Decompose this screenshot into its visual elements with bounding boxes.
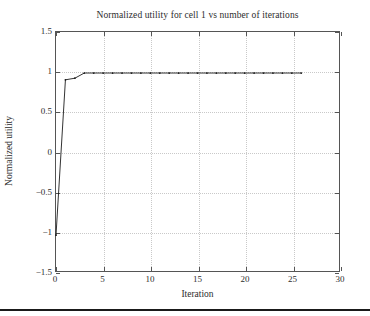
y-tick-label: 0.5 [41, 106, 52, 116]
x-axis-label: Iteration [55, 289, 340, 299]
x-tick-label: 5 [100, 274, 105, 284]
data-point-marker [131, 72, 133, 74]
data-point-marker [197, 72, 199, 74]
y-tick-label: −1.5 [36, 267, 52, 277]
chart-title: Normalized utility for cell 1 vs number … [55, 10, 340, 20]
x-tick-label: 0 [53, 274, 58, 284]
data-series-layer [56, 32, 339, 271]
plot-area [55, 31, 340, 272]
y-tick-label: 0 [48, 147, 53, 157]
series-line [56, 73, 301, 235]
y-axis-label: Normalized utility [4, 116, 14, 186]
data-point-marker [159, 72, 161, 74]
data-point-marker [234, 72, 236, 74]
data-point-marker [187, 72, 189, 74]
x-tick-label: 30 [336, 274, 345, 284]
y-tick-label: −0.5 [36, 187, 52, 197]
data-point-marker [244, 72, 246, 74]
y-tick-label: −1 [42, 227, 52, 237]
data-point-marker [291, 72, 293, 74]
data-point-marker [112, 72, 114, 74]
x-axis-tick [341, 267, 342, 271]
x-tick-label: 10 [146, 274, 155, 284]
data-point-marker [83, 72, 85, 74]
x-axis-tick [341, 32, 342, 36]
data-point-marker [102, 72, 104, 74]
data-point-marker [74, 77, 76, 79]
data-point-marker [149, 72, 151, 74]
data-point-marker [93, 72, 95, 74]
x-tick-label: 20 [241, 274, 250, 284]
data-point-marker [178, 72, 180, 74]
data-point-marker [140, 72, 142, 74]
data-point-marker [121, 72, 123, 74]
data-point-marker [65, 79, 67, 81]
data-point-marker [225, 72, 227, 74]
data-point-marker [215, 72, 217, 74]
x-tick-label: 25 [288, 274, 297, 284]
data-point-marker [300, 72, 302, 74]
page-edge-rule [0, 309, 370, 311]
x-tick-label: 15 [193, 274, 202, 284]
data-point-marker [282, 72, 284, 74]
y-tick-label: 1 [48, 66, 53, 76]
y-tick-label: 1.5 [41, 26, 52, 36]
data-point-marker [206, 72, 208, 74]
data-point-marker [263, 72, 265, 74]
data-point-marker [168, 72, 170, 74]
data-point-marker [55, 234, 57, 236]
data-point-marker [253, 72, 255, 74]
figure-canvas: Normalized utility for cell 1 vs number … [0, 0, 370, 316]
data-point-marker [272, 72, 274, 74]
